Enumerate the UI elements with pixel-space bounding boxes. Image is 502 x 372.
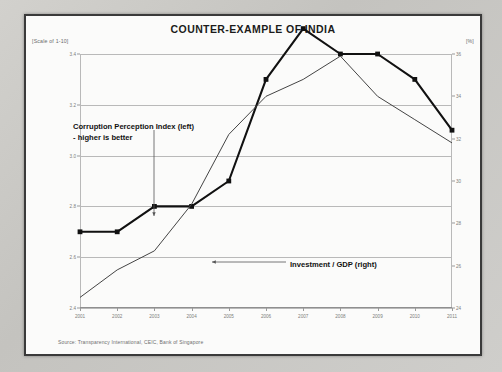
x-axis-tick-mark <box>415 308 416 311</box>
x-axis-tick-mark <box>266 308 267 311</box>
x-axis-tick-mark <box>340 308 341 311</box>
x-axis-tick-mark <box>154 308 155 311</box>
left-axis-tick-label: 2.8 <box>70 204 76 209</box>
x-axis-tick-mark <box>117 308 118 311</box>
left-axis-tick-label: 3.0 <box>70 153 76 158</box>
x-axis-tick-label: 2004 <box>186 314 196 319</box>
x-axis-tick-label: 2010 <box>410 314 420 319</box>
left-axis-note: [Scale of 1-10] <box>32 38 68 44</box>
right-axis-tick-mark <box>452 96 455 97</box>
annotation-cpi-line1: Corruption Perception Index (left) <box>73 121 194 132</box>
left-axis-tick-label: 3.4 <box>70 52 76 57</box>
left-axis-tick-label: 2.4 <box>70 306 76 311</box>
left-axis-tick-label: 2.6 <box>70 255 76 260</box>
x-axis-tick-label: 2009 <box>372 314 382 319</box>
annotation-cpi-line2: - higher is better <box>73 132 194 143</box>
annotation-cpi: Corruption Perception Index (left) - hig… <box>73 121 194 143</box>
series-marker <box>301 26 306 31</box>
right-axis-tick-mark <box>452 223 455 224</box>
right-axis-tick-label: 34 <box>456 94 461 99</box>
x-axis-tick-mark <box>192 308 193 311</box>
right-axis-tick-label: 30 <box>456 179 461 184</box>
right-axis-tick-label: 24 <box>456 306 461 311</box>
right-axis-tick-label: 28 <box>456 221 461 226</box>
x-axis-tick-mark <box>452 308 453 311</box>
x-axis-tick-label: 2001 <box>75 314 85 319</box>
right-axis-tick-label: 26 <box>456 263 461 268</box>
x-axis-tick-label: 2008 <box>335 314 345 319</box>
x-axis-tick-label: 2011 <box>447 314 457 319</box>
slide-canvas: COUNTER-EXAMPLE OF INDIA [Scale of 1-10]… <box>24 14 482 356</box>
x-axis-tick-label: 2006 <box>261 314 271 319</box>
x-axis-tick-mark <box>229 308 230 311</box>
x-axis-tick-mark <box>378 308 379 311</box>
pointer-investment <box>212 260 286 263</box>
slide-background: COUNTER-EXAMPLE OF INDIA [Scale of 1-10]… <box>0 0 502 372</box>
x-axis-tick-mark <box>303 308 304 311</box>
annotation-investment: Investment / GDP (right) <box>290 259 377 270</box>
right-axis-tick-mark <box>452 54 455 55</box>
x-axis-tick-label: 2002 <box>112 314 122 319</box>
right-axis-tick-mark <box>452 265 455 266</box>
right-axis-tick-label: 32 <box>456 136 461 141</box>
right-axis-tick-label: 36 <box>456 52 461 57</box>
right-axis-tick-mark <box>452 138 455 139</box>
left-axis-tick-label: 3.2 <box>70 102 76 107</box>
right-axis-note: [%] <box>466 38 474 44</box>
x-axis-tick-label: 2007 <box>298 314 308 319</box>
source-note: Source: Transparency International, CEIC… <box>58 339 203 345</box>
annotation-pointers <box>80 54 452 308</box>
x-axis-tick-mark <box>80 308 81 311</box>
x-axis-tick-label: 2005 <box>224 314 234 319</box>
right-axis-tick-mark <box>452 181 455 182</box>
x-axis-tick-label: 2003 <box>149 314 159 319</box>
chart-plot-area: 2.42.62.83.03.23.4 24262830323436 200120… <box>80 54 452 308</box>
page-title: COUNTER-EXAMPLE OF INDIA <box>26 23 480 35</box>
